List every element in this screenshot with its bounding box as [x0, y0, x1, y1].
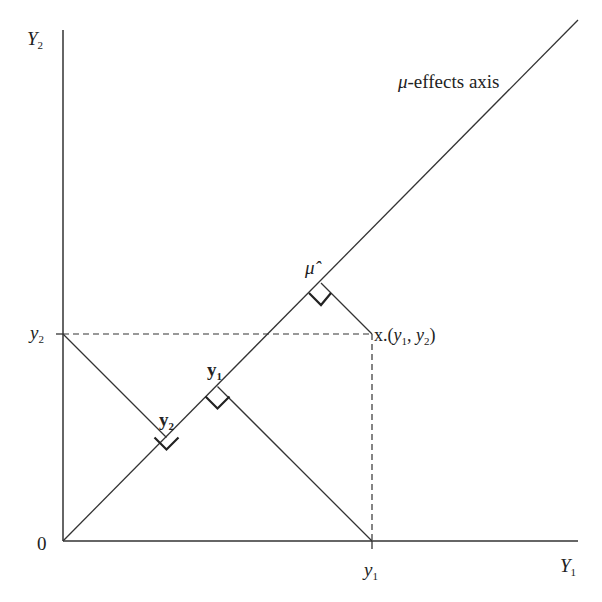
- point-x-label: x.(y1, y2): [374, 326, 436, 347]
- projection-y2-line: [63, 334, 167, 438]
- y1-tick-label: y1: [364, 560, 378, 582]
- y2-projection-label: y2: [159, 410, 174, 432]
- y-axis-label: Y2: [27, 29, 43, 51]
- y2-tick-label: y2: [30, 323, 44, 345]
- right-angle-y2: [155, 438, 179, 450]
- x-axis-label: Y1: [560, 556, 576, 578]
- mu-effects-axis: [63, 20, 578, 541]
- right-angle-y1: [206, 397, 230, 409]
- right-angle-mu-hat: [309, 293, 331, 305]
- mu-effects-axis-label: μ-effects axis: [398, 72, 500, 91]
- mu-hat-label: μ̂: [305, 258, 315, 277]
- projection-y1-line: [218, 387, 373, 542]
- origin-label: 0: [37, 534, 47, 553]
- projection-x-to-mu-hat: [321, 283, 372, 334]
- diagram-canvas: [0, 0, 602, 602]
- y1-projection-label: y1: [207, 360, 222, 382]
